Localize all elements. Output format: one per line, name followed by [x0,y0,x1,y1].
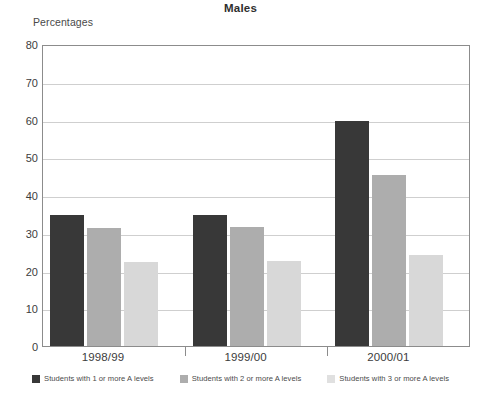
bar [372,175,406,346]
bar-group [43,46,186,346]
bar [124,262,158,346]
y-tick-label: 70 [4,77,38,89]
bar [50,215,84,346]
y-axis-title: Percentages [33,16,93,28]
x-axis-tick [185,347,186,356]
bar [230,227,264,346]
legend-swatch-icon [180,375,188,383]
x-axis-tick [327,347,328,356]
bar-group [328,46,471,346]
bar [193,215,227,346]
legend-swatch-icon [32,375,40,383]
legend-item: Students with 3 or more A levels [327,374,449,383]
y-tick-label: 50 [4,152,38,164]
y-tick-label: 20 [4,266,38,278]
y-axis-tick-labels: 01020304050607080 [0,0,38,401]
y-tick-label: 80 [4,39,38,51]
x-tick-label: 1998/99 [82,351,124,363]
legend-label: Students with 2 or more A levels [192,374,302,383]
y-tick-label: 30 [4,228,38,240]
y-tick-label: 60 [4,115,38,127]
bar-group [186,46,329,346]
x-tick-label: 2000/01 [367,351,409,363]
legend-label: Students with 3 or more A levels [339,374,449,383]
bar [409,255,443,346]
bar [335,121,369,346]
plot-area [42,45,470,347]
legend-swatch-icon [327,375,335,383]
legend-label: Students with 1 or more A levels [44,374,154,383]
y-tick-label: 0 [4,341,38,353]
legend-item: Students with 2 or more A levels [180,374,302,383]
x-tick-label: 1999/00 [225,351,267,363]
bar [87,228,121,346]
chart-title: Males [0,2,481,14]
bar-chart: Males Percentages 01020304050607080 1998… [0,0,481,401]
y-tick-label: 10 [4,303,38,315]
bar [267,261,301,346]
chart-legend: Students with 1 or more A levelsStudents… [0,374,481,383]
y-tick-label: 40 [4,190,38,202]
legend-item: Students with 1 or more A levels [32,374,154,383]
